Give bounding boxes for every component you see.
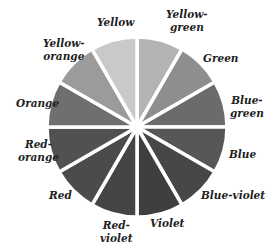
color-wheel xyxy=(0,0,266,251)
label-blue: Blue xyxy=(229,148,256,161)
label-red: Red xyxy=(49,189,72,202)
label-yellow-green: Yellow- green xyxy=(166,8,208,34)
label-yellow: Yellow xyxy=(97,16,134,29)
label-orange: Orange xyxy=(16,97,59,110)
label-violet: Violet xyxy=(150,217,184,230)
label-blue-violet: Blue-violet xyxy=(201,189,265,202)
label-red-violet: Red- violet xyxy=(100,219,133,245)
label-red-orange: Red- orange xyxy=(18,138,59,164)
label-green: Green xyxy=(203,52,239,65)
label-blue-green: Blue- green xyxy=(230,94,264,120)
wheel-hub xyxy=(132,122,142,132)
label-yellow-orange: Yellow- orange xyxy=(43,37,85,63)
